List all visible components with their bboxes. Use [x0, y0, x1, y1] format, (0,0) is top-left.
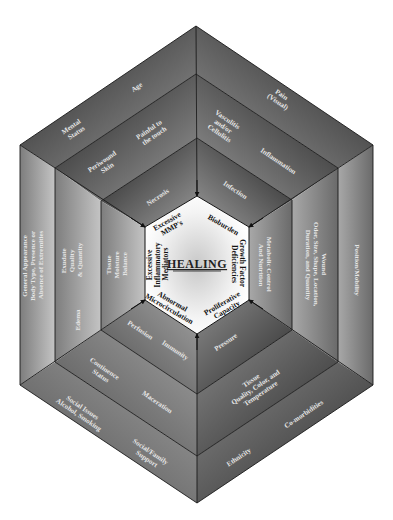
healing-title: HEALING: [167, 257, 227, 271]
factor-growth-factor: Growth Factor Deficiencies: [230, 239, 247, 289]
label-position-mobility: Position/Mobility: [353, 244, 361, 296]
label-general-appearance: General Appearance Body Type, Presence o…: [21, 229, 45, 301]
label-metabolic-control: Metabolic Control And Nutrition: [257, 237, 273, 294]
label-edema: Edema: [74, 309, 82, 331]
label-tissue-moisture: Tissue Moisture Balance: [105, 250, 129, 279]
healing-hexagon-diagram: Age Mental Status Pain (Visual) Position…: [0, 0, 393, 520]
